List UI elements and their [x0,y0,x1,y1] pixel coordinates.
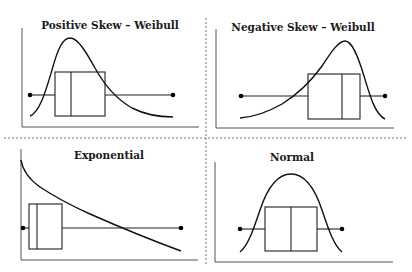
max-dot [171,93,176,98]
min-dot [239,94,244,99]
iqr-box [29,204,62,249]
min-dot [21,226,26,231]
panel-positive-skew: Positive Skew – Weibull [22,19,199,127]
panel-negative-skew: Negative Skew – Weibull [216,21,394,128]
panel-title: Exponential [74,149,144,161]
max-dot [179,226,184,231]
max-dot [383,94,388,99]
panel-exponential: Exponential [21,149,198,260]
distribution-boxplot-figure: Positive Skew – Weibull Negative Skew – … [0,0,412,272]
max-dot [340,227,345,232]
panel-title: Positive Skew – Weibull [41,19,179,31]
panel-normal: Normal [215,151,393,262]
min-dot [238,227,243,232]
min-dot [28,93,33,98]
panel-title: Normal [270,151,314,163]
iqr-box [55,72,105,116]
panel-title: Negative Skew – Weibull [231,21,374,33]
iqr-box [308,74,360,119]
